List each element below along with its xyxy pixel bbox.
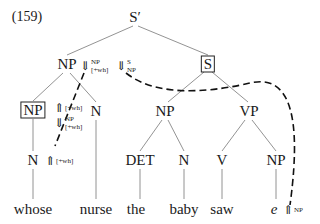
double-up-arrow-icon: ⇑ [45, 155, 55, 167]
annotation-label: [+wh] [65, 105, 82, 112]
annotation-n-whose-up: ⇑ [+wh] [45, 155, 73, 167]
annotation-label: NP [294, 207, 303, 214]
annotation-bottom: [+wh] [65, 123, 82, 131]
annotation-np-boxed-down: ⇓ NP [+wh] [54, 115, 82, 131]
node-s-boxed: S [201, 56, 215, 73]
node-np-wh: NP [57, 57, 76, 72]
double-up-arrow-icon: ⇑ [54, 102, 64, 114]
double-up-arrow-icon: ⇑ [283, 204, 293, 216]
node-s-bar: S′ [129, 10, 141, 25]
annotation-s-down: ⇓ S NP [116, 58, 136, 74]
annotation-top: NP [91, 58, 108, 66]
double-down-arrow-icon: ⇓ [116, 60, 126, 72]
node-np-object: NP [266, 153, 285, 168]
annotation-bottom: NP [127, 66, 136, 74]
word-saw: saw [210, 202, 233, 217]
syntax-tree-diagram: (159) S′ NP ⇓ NP [+wh] ⇓ S NP S NP ⇑ [+w… [0, 0, 320, 224]
annotation-label: [+wh] [56, 158, 73, 165]
node-n-nurse: N [91, 104, 102, 119]
word-baby: baby [169, 202, 198, 217]
word-empty-e: e [271, 202, 278, 217]
node-np-subject: NP [155, 104, 174, 119]
node-n-baby: N [179, 153, 190, 168]
double-down-arrow-icon: ⇓ [54, 117, 64, 129]
annotation-top: NP [65, 115, 82, 123]
word-whose: whose [14, 202, 52, 217]
word-nurse: nurse [80, 202, 113, 217]
double-down-arrow-icon: ⇓ [80, 60, 90, 72]
annotation-np-boxed-up: ⇑ [+wh] [54, 102, 82, 114]
annotation-e-up: ⇑ NP [283, 204, 303, 216]
node-vp: VP [239, 104, 258, 119]
annotation-np-down: ⇓ NP [+wh] [80, 58, 108, 74]
annotation-top: S [127, 58, 136, 66]
node-det: DET [125, 153, 154, 168]
node-v: V [217, 153, 228, 168]
node-n-whose: N [28, 153, 39, 168]
node-np-boxed: NP [20, 102, 45, 119]
word-the: the [127, 202, 145, 217]
example-number: (159) [12, 10, 42, 24]
annotation-bottom: [+wh] [91, 66, 108, 74]
